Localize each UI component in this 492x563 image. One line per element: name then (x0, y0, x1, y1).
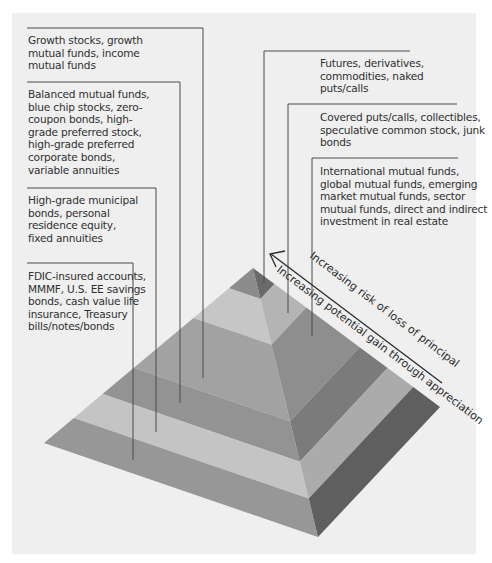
label-futures: Futures, derivatives, commodities, naked… (320, 57, 424, 95)
label-fdic: FDIC-insured accounts, MMMF, U.S. EE sav… (28, 270, 146, 333)
label-municipal: High-grade municipal bonds, personal res… (28, 194, 138, 244)
label-balanced: Balanced mutual funds, blue chip stocks,… (28, 88, 149, 176)
label-international: International mutual funds, global mutua… (320, 165, 487, 228)
label-growth: Growth stocks, growth mutual funds, inco… (28, 34, 143, 72)
label-covered: Covered puts/calls, collectibles, specul… (320, 111, 485, 149)
